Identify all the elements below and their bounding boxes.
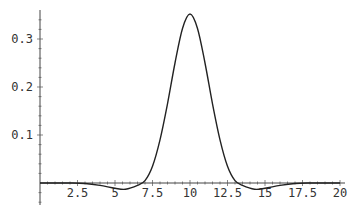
x-tick-label: 7.5: [142, 186, 164, 200]
x-tick-label: 20: [333, 186, 347, 200]
y-tick-label: 0.1: [11, 128, 33, 142]
x-tick-label: 10: [183, 186, 197, 200]
data-series-line: [40, 14, 340, 189]
x-tick-label: 12.5: [213, 186, 242, 200]
x-tick-label: 17.5: [288, 186, 317, 200]
y-axis: 0.10.20.3: [11, 10, 43, 205]
y-tick-label: 0.2: [11, 80, 33, 94]
line-chart: 0.10.20.3 2.557.51012.51517.520: [0, 0, 364, 212]
x-tick-label: 2.5: [67, 186, 89, 200]
y-tick-label: 0.3: [11, 32, 33, 46]
